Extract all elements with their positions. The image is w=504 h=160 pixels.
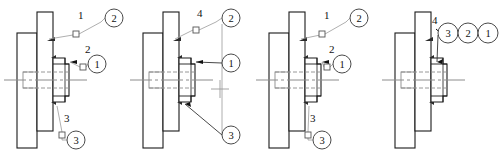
- figure-canvas: 12321342131232134321: [0, 0, 504, 160]
- view-b: 4213: [126, 0, 252, 160]
- inner-plate: [37, 12, 53, 131]
- balloon-2[interactable]: 2: [458, 23, 478, 43]
- view-c: 123213: [252, 0, 378, 160]
- outer-plate: [143, 33, 163, 148]
- leader-3: [57, 106, 62, 132]
- balloon-1-text: 1: [228, 58, 233, 69]
- balloon-2[interactable]: 2: [350, 9, 368, 27]
- balloon-1-text: 1: [94, 59, 99, 70]
- label-3-bottom-marker: [305, 132, 311, 138]
- balloon-3-text: 3: [445, 28, 450, 39]
- balloon-1-text: 1: [485, 28, 490, 39]
- inner-plate: [415, 12, 431, 131]
- outer-plate: [269, 33, 289, 148]
- label-1-top: 1: [78, 9, 84, 21]
- view-d-drawing: 4321: [378, 0, 504, 160]
- outer-plate: [395, 33, 415, 148]
- label-1-top-marker: [73, 31, 79, 37]
- balloon-2-text: 2: [465, 28, 470, 39]
- balloon-2[interactable]: 2: [222, 9, 240, 27]
- balloon-3-text: 3: [228, 130, 233, 141]
- label-3-bottom: 3: [64, 112, 70, 124]
- arrow-2: [322, 60, 329, 64]
- assembly-cross-section: [256, 12, 339, 148]
- balloon-2-text: 2: [356, 13, 361, 24]
- label-2-mid-marker: [80, 64, 86, 70]
- leader-4b: [199, 18, 222, 30]
- label-2-mid: 2: [85, 43, 91, 55]
- label-4-top-marker: [193, 27, 199, 33]
- leader-3: [308, 106, 309, 132]
- balloon-3-text: 3: [319, 135, 324, 146]
- label-2-mid-marker: [324, 64, 330, 70]
- label-1-top-marker: [319, 31, 325, 37]
- inner-plate: [289, 12, 305, 131]
- label-2-mid: 2: [329, 43, 335, 55]
- balloon-2-text: 2: [111, 13, 116, 24]
- balloon-2-text: 2: [228, 13, 233, 24]
- view-a: 123213: [0, 0, 126, 160]
- view-c-drawing: 123213: [252, 0, 378, 160]
- balloon-3-text: 3: [73, 135, 78, 146]
- balloon-3[interactable]: 3: [313, 131, 331, 149]
- label-3-bottom: 3: [310, 112, 316, 124]
- arrow-1: [196, 60, 203, 64]
- balloon-1-text: 1: [339, 59, 344, 70]
- balloon-3[interactable]: 3: [67, 131, 85, 149]
- leader-1: [301, 18, 350, 39]
- leader-3: [185, 104, 222, 135]
- balloon-1[interactable]: 1: [88, 55, 106, 73]
- balloon-3[interactable]: 3: [438, 23, 458, 43]
- balloon-1[interactable]: 1: [222, 54, 240, 72]
- view-a-drawing: 123213: [0, 0, 126, 160]
- outer-plate: [17, 33, 37, 148]
- balloon-1[interactable]: 1: [333, 55, 351, 73]
- view-d: 4321: [378, 0, 504, 160]
- label-3-bottom-marker: [59, 132, 65, 138]
- inner-plate: [163, 12, 179, 131]
- balloon-2[interactable]: 2: [105, 9, 123, 27]
- label-1-top: 1: [324, 9, 330, 21]
- label-4-top: 4: [197, 7, 203, 19]
- label-4-top: 4: [432, 14, 438, 26]
- assembly-cross-section: [130, 12, 213, 148]
- balloon-3[interactable]: 3: [222, 126, 240, 144]
- view-b-drawing: 4213: [126, 0, 252, 160]
- balloon-1[interactable]: 1: [478, 23, 498, 43]
